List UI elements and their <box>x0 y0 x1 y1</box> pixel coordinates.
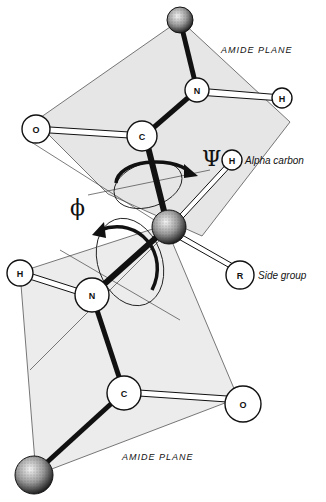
top-plane-label: AMIDE PLANE <box>220 45 293 55</box>
atom-bottom-n: N <box>75 278 109 312</box>
atom-label: H <box>279 94 286 104</box>
atom-label: H <box>229 156 236 166</box>
atom-label: C <box>139 132 146 142</box>
side-group-callout: Side group <box>258 270 307 281</box>
atom-label: N <box>194 86 201 96</box>
atom-label: O <box>32 125 39 135</box>
atom-bottom-h: H <box>7 260 33 286</box>
atom-label: O <box>239 400 246 410</box>
atom-side-group-r: R <box>226 261 254 289</box>
atom-alpha-h: H <box>222 150 242 170</box>
psi-symbol: Ψ <box>202 146 221 171</box>
atom-top-o: O <box>22 115 50 143</box>
atom-top-n: N <box>185 78 209 102</box>
atom-label: N <box>89 291 96 301</box>
atom-bottom-alpha-carbon <box>15 456 53 494</box>
phi-arrowhead-icon <box>92 222 106 238</box>
bottom-plane-label: AMIDE PLANE <box>121 452 194 462</box>
atom-bottom-o: O <box>225 386 261 422</box>
atom-bottom-c: C <box>107 376 141 410</box>
atom-top-h: H <box>272 88 292 108</box>
alpha-carbon-callout: Alpha carbon <box>244 155 304 166</box>
phi-symbol: ϕ <box>70 195 85 220</box>
atom-label: H <box>17 269 24 279</box>
peptide-diagram: N H O C H R H N C O AMID <box>0 0 326 502</box>
atom-alpha-carbon <box>152 210 186 244</box>
atom-label: R <box>237 271 244 281</box>
atom-top-alpha-carbon <box>167 7 193 33</box>
atom-top-c: C <box>127 121 157 151</box>
atom-label: C <box>121 389 128 399</box>
